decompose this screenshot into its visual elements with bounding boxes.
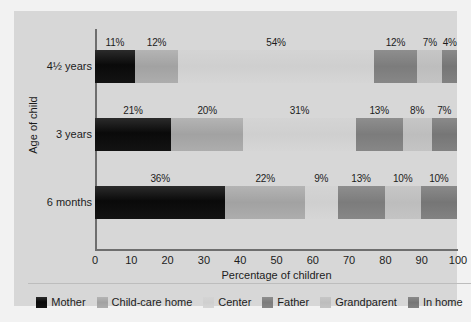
bar-segment-value-label: 12% [386,37,405,48]
legend-swatch-icon [408,297,419,308]
x-axis-tick-label: 90 [416,254,428,266]
x-axis-title: Percentage of children [95,269,458,281]
chart-figure: 11%12%54%12%7%4%21%20%31%13%8%7%36%22%9%… [0,0,471,322]
legend-item[interactable]: Child-care home [97,296,193,308]
x-axis-tick-label: 30 [198,254,210,266]
x-axis-tick-label: 100 [449,254,467,266]
bar-segment[interactable]: 20% [171,118,243,151]
x-axis-tick-label: 70 [343,254,355,266]
bar-segment-value-label: 11% [106,37,125,48]
bar-segment-value-label: 22% [255,173,274,184]
legend-swatch-icon [36,297,47,308]
bar-segment-value-label: 10% [393,173,412,184]
bar-row: 36%22%9%13%10%10% [95,186,457,219]
bar-segment[interactable]: 7% [432,118,457,151]
bar-segment-value-label: 8% [410,105,424,116]
bar-segment-value-label: 4% [443,37,457,48]
bar-segment-value-label: 20% [197,105,216,116]
bar-segment-value-label: 21% [123,105,142,116]
legend-item-label: In home [423,296,463,308]
legend-swatch-icon [203,297,214,308]
bar-segment-value-label: 7% [423,37,437,48]
bar-row: 21%20%31%13%8%7% [95,118,457,151]
bar-segment[interactable]: 12% [135,50,178,83]
bar-segment[interactable]: 12% [374,50,417,83]
x-axis-line [95,249,458,251]
bar-segment[interactable]: 11% [95,50,135,83]
legend-item[interactable]: Mother [36,296,85,308]
bar-segment[interactable]: 8% [403,118,432,151]
legend-swatch-icon [262,297,273,308]
y-axis-tick-label: 4½ years [30,60,92,72]
legend-item-label: Child-care home [112,296,193,308]
legend-item-label: Center [218,296,251,308]
x-axis-tick-label: 40 [234,254,246,266]
bar-segment[interactable]: 7% [417,50,442,83]
legend-item[interactable]: In home [408,296,463,308]
bar-segment[interactable]: 22% [225,186,305,219]
chart-panel: 11%12%54%12%7%4%21%20%31%13%8%7%36%22%9%… [14,11,457,306]
x-axis-tick-label: 50 [270,254,282,266]
bar-segment[interactable]: 36% [95,186,225,219]
bar-segment[interactable]: 21% [95,118,171,151]
y-axis-tick-label: 6 months [30,196,92,208]
x-axis-tick-label: 60 [307,254,319,266]
bar-segment-value-label: 9% [314,173,328,184]
bar-segment-value-label: 13% [351,173,370,184]
x-axis-tick-label: 10 [125,254,137,266]
bar-segment[interactable]: 13% [338,186,385,219]
bar-segment-value-label: 31% [290,105,309,116]
plot-area: 11%12%54%12%7%4%21%20%31%13%8%7%36%22%9%… [95,29,457,248]
bar-segment[interactable]: 10% [385,186,421,219]
bar-segment[interactable]: 10% [421,186,457,219]
bar-segment-value-label: 13% [369,105,388,116]
bar-row: 11%12%54%12%7%4% [95,50,457,83]
x-axis-tick-label: 0 [92,254,98,266]
bar-segment[interactable]: 9% [305,186,338,219]
bar-segment-value-label: 10% [429,173,448,184]
bar-segment[interactable]: 31% [243,118,355,151]
bar-segment-value-label: 7% [437,105,451,116]
bar-segment[interactable]: 4% [442,50,456,83]
x-axis-tick-label: 80 [379,254,391,266]
chart-legend: MotherChild-care homeCenterFatherGrandpa… [28,289,471,315]
bar-segment-value-label: 12% [147,37,166,48]
legend-item[interactable]: Center [203,296,251,308]
x-axis-tick-label: 20 [161,254,173,266]
bar-segment-value-label: 36% [150,173,169,184]
bar-segment[interactable]: 54% [178,50,373,83]
legend-swatch-icon [97,297,108,308]
legend-item[interactable]: Grandparent [320,296,397,308]
y-axis-title: Age of child [27,70,39,180]
legend-swatch-icon [320,297,331,308]
legend-item-label: Mother [51,296,85,308]
legend-divider [28,283,471,284]
bar-segment[interactable]: 13% [356,118,403,151]
legend-item[interactable]: Father [262,296,309,308]
legend-item-label: Father [277,296,309,308]
x-axis-tick-labels: 0102030405060708090100 [95,254,458,270]
bar-segment-value-label: 54% [266,37,285,48]
legend-item-label: Grandparent [335,296,397,308]
y-axis-tick-label: 3 years [30,128,92,140]
